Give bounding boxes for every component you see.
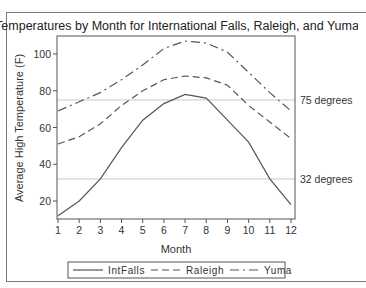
y-axis-label: Average High Temperature (F) (13, 54, 25, 202)
series-line-yuma (58, 41, 291, 111)
x-tick-label: 10 (243, 224, 255, 236)
y-tick-label: 60 (39, 122, 51, 134)
reference-line-label: 75 degrees (300, 94, 353, 106)
series-line-intfalls (58, 94, 291, 215)
reference-line-label: 32 degrees (300, 173, 353, 185)
legend: IntFallsRaleighYuma (68, 262, 292, 278)
x-tick-label: 11 (264, 224, 275, 236)
series-lines (58, 41, 291, 216)
reference-lines: 75 degrees32 degrees (57, 94, 353, 185)
x-tick-label: 8 (203, 224, 209, 236)
x-tick-label: 7 (182, 224, 188, 236)
y-tick-label: 20 (39, 195, 51, 207)
x-tick-label: 3 (97, 224, 103, 236)
x-tick-label: 1 (55, 224, 61, 236)
x-tick-label: 2 (76, 224, 82, 236)
y-tick-label: 100 (33, 48, 51, 60)
x-tick-label: 5 (140, 224, 146, 236)
legend-label: Raleigh (186, 265, 224, 276)
y-tick-label: 80 (39, 85, 51, 97)
y-tick-label: 40 (39, 158, 51, 170)
plot-area (57, 36, 295, 219)
series-line-raleigh (58, 76, 291, 144)
x-axis: 123456789101112 (55, 219, 297, 236)
x-tick-label: 12 (285, 224, 297, 236)
x-tick-label: 6 (161, 224, 167, 236)
legend-label: IntFalls (108, 265, 145, 276)
x-tick-label: 4 (119, 224, 125, 236)
chart-title: Temperatures by Month for International … (0, 19, 358, 33)
y-axis: 20406080100 (33, 48, 57, 207)
x-tick-label: 9 (225, 224, 231, 236)
legend-label: Yuma (264, 265, 292, 276)
x-axis-label: Month (161, 243, 192, 255)
